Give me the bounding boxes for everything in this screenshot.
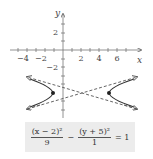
y-axis: y 2 −2 bbox=[46, 8, 65, 118]
x-tick-6: 6 bbox=[114, 54, 119, 63]
y-tick-2: 2 bbox=[53, 28, 58, 37]
equation-rhs: = 1 bbox=[115, 133, 129, 142]
minus-operator: − bbox=[67, 133, 74, 142]
x-tick-2: 2 bbox=[78, 54, 83, 63]
x-axis-label: x bbox=[137, 55, 142, 65]
fraction-x: (x − 2)² 9 bbox=[31, 127, 64, 148]
hyperbola-figure: −4 −2 2 4 6 x y 2 −2 bbox=[0, 0, 153, 159]
denominator-y: 1 bbox=[92, 138, 97, 148]
x-tick-neg2: −2 bbox=[35, 54, 47, 63]
x-tick-4: 4 bbox=[96, 54, 101, 63]
vertex-left bbox=[51, 91, 55, 95]
numerator-x: (x − 2)² bbox=[31, 127, 64, 138]
equation-box: (x − 2)² 9 − (y + 5)² 1 = 1 bbox=[25, 122, 135, 152]
y-axis-label: y bbox=[54, 8, 61, 18]
vertex-right bbox=[107, 91, 111, 95]
x-axis: −4 −2 2 4 6 x bbox=[10, 48, 142, 65]
numerator-y: (y + 5)² bbox=[78, 127, 111, 138]
asymptotes bbox=[27, 77, 137, 109]
hyperbola-right-branch bbox=[109, 79, 134, 107]
denominator-x: 9 bbox=[45, 138, 50, 148]
x-tick-neg4: −4 bbox=[17, 54, 29, 63]
fraction-y: (y + 5)² 1 bbox=[78, 127, 111, 148]
y-tick-neg2: −2 bbox=[46, 63, 58, 72]
